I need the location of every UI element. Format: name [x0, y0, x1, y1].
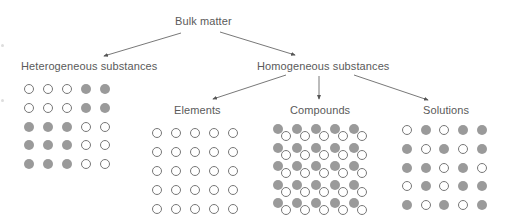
open-particle [171, 128, 181, 138]
open-particle [421, 200, 431, 210]
open-particle [190, 166, 200, 176]
open-particle [209, 128, 219, 138]
open-particle [209, 185, 219, 195]
node-heterogeneous-substances: Heterogeneous substances [21, 60, 157, 72]
open-particle [357, 205, 367, 215]
open-particle [152, 166, 162, 176]
open-particle [171, 147, 181, 157]
filled-particle [477, 125, 487, 135]
node-homogeneous-substances: Homogeneous substances [257, 60, 389, 72]
filled-particle [24, 122, 34, 132]
node-elements: Elements [174, 104, 221, 116]
open-particle [357, 131, 367, 141]
open-particle [62, 103, 72, 113]
open-particle [477, 163, 487, 173]
filled-particle [100, 103, 110, 113]
filled-particle [458, 163, 468, 173]
open-particle [152, 204, 162, 214]
open-particle [319, 187, 329, 197]
open-particle [228, 204, 238, 214]
open-particle [171, 185, 181, 195]
filled-particle [421, 125, 431, 135]
open-particle [338, 168, 348, 178]
filled-particle [100, 84, 110, 94]
open-particle [357, 150, 367, 160]
open-particle [300, 131, 310, 141]
open-particle [190, 204, 200, 214]
open-particle [281, 205, 291, 215]
open-particle [209, 166, 219, 176]
arrow-root-to-homogeneous [220, 32, 295, 55]
open-particle [228, 185, 238, 195]
open-particle [152, 185, 162, 195]
open-particle [402, 125, 412, 135]
open-particle [338, 131, 348, 141]
open-particle [421, 144, 431, 154]
filled-particle [421, 163, 431, 173]
node-bulk-matter: Bulk matter [175, 15, 232, 27]
open-particle [209, 147, 219, 157]
open-particle [281, 187, 291, 197]
open-particle [281, 168, 291, 178]
filled-particle [477, 200, 487, 210]
edge-mark [1, 99, 4, 102]
open-particle [319, 150, 329, 160]
open-particle [319, 131, 329, 141]
open-particle [171, 204, 181, 214]
filled-particle [81, 103, 91, 113]
open-particle [152, 128, 162, 138]
open-particle [338, 150, 348, 160]
open-particle [24, 103, 34, 113]
open-particle [439, 163, 449, 173]
open-particle [300, 150, 310, 160]
open-particle [300, 205, 310, 215]
filled-particle [402, 144, 412, 154]
open-particle [319, 168, 329, 178]
open-particle [24, 84, 34, 94]
open-particle [338, 205, 348, 215]
open-particle [300, 187, 310, 197]
open-particle [62, 84, 72, 94]
arrow-root-to-heterogeneous [104, 33, 181, 56]
filled-particle [43, 122, 53, 132]
node-solutions: Solutions [423, 104, 469, 116]
open-particle [281, 131, 291, 141]
filled-particle [81, 84, 91, 94]
open-particle [281, 150, 291, 160]
arrow-homogeneous-to-solutions [354, 75, 428, 100]
open-particle [209, 204, 219, 214]
open-particle [152, 147, 162, 157]
node-compounds: Compounds [290, 104, 350, 116]
open-particle [357, 168, 367, 178]
open-particle [171, 166, 181, 176]
open-particle [228, 128, 238, 138]
open-particle [190, 128, 200, 138]
open-particle [300, 168, 310, 178]
open-particle [228, 147, 238, 157]
filled-particle [402, 163, 412, 173]
open-particle [319, 205, 329, 215]
open-particle [190, 147, 200, 157]
open-particle [458, 144, 468, 154]
open-particle [338, 187, 348, 197]
arrow-homogeneous-to-elements [213, 75, 286, 99]
open-particle [43, 103, 53, 113]
filled-particle [62, 122, 72, 132]
edge-mark [1, 44, 4, 47]
open-particle [81, 122, 91, 132]
open-particle [100, 122, 110, 132]
open-particle [357, 187, 367, 197]
filled-particle [477, 144, 487, 154]
open-particle [228, 166, 238, 176]
open-particle [43, 84, 53, 94]
open-particle [190, 185, 200, 195]
